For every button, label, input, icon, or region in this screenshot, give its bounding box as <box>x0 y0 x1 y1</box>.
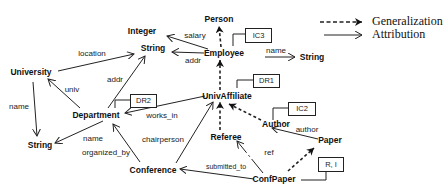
edge-label-addr-employee: addr <box>185 57 201 65</box>
node-author: Author <box>262 120 290 129</box>
schema-diagram: Generalization Attribution Person Intege… <box>0 0 448 193</box>
node-univ-affiliate: UnivAffiliate <box>202 92 252 101</box>
constraint-box-ic3: IC3 <box>245 28 272 43</box>
legend-attribution-label: Attribution <box>372 28 425 40</box>
edge-label-ref: ref <box>264 149 273 157</box>
edge-label-works-in: works_in <box>146 112 178 120</box>
node-integer: Integer <box>128 27 156 36</box>
constraint-box-ri: R, I <box>318 157 344 172</box>
node-string-top: String <box>141 44 166 53</box>
node-string-left: String <box>28 141 53 150</box>
edge-label-name-university: name <box>9 103 29 111</box>
node-conf-paper: ConfPaper <box>253 175 296 184</box>
node-referee: Referee <box>210 133 241 142</box>
edge-label-addr-department: addr <box>107 76 123 84</box>
constraint-box-dr2: DR2 <box>130 94 157 108</box>
node-university: University <box>10 68 51 77</box>
edge-label-submitted-to: submitted_to <box>206 163 246 170</box>
constraint-box-ic2: IC2 <box>288 102 316 116</box>
edge-label-name-employee: name <box>266 47 286 55</box>
constraint-box-dr1: DR1 <box>253 74 280 88</box>
legend-generalization-label: Generalization <box>372 15 443 27</box>
edge-label-organized-by: organized_by <box>82 149 130 157</box>
node-department: Department <box>72 111 119 120</box>
node-person: Person <box>205 15 234 24</box>
edge-label-name-department: name <box>83 135 103 143</box>
edge-label-salary: salary <box>184 32 205 40</box>
edge-label-chairperson: chairperson <box>142 136 184 144</box>
edge-label-univ: univ <box>65 86 80 94</box>
node-conference: Conference <box>130 166 177 175</box>
edge-label-author: author <box>296 126 319 134</box>
node-paper: Paper <box>318 136 342 145</box>
node-string-right: String <box>300 53 325 62</box>
edge-label-location: location <box>78 50 106 58</box>
node-employee: Employee <box>204 49 244 58</box>
